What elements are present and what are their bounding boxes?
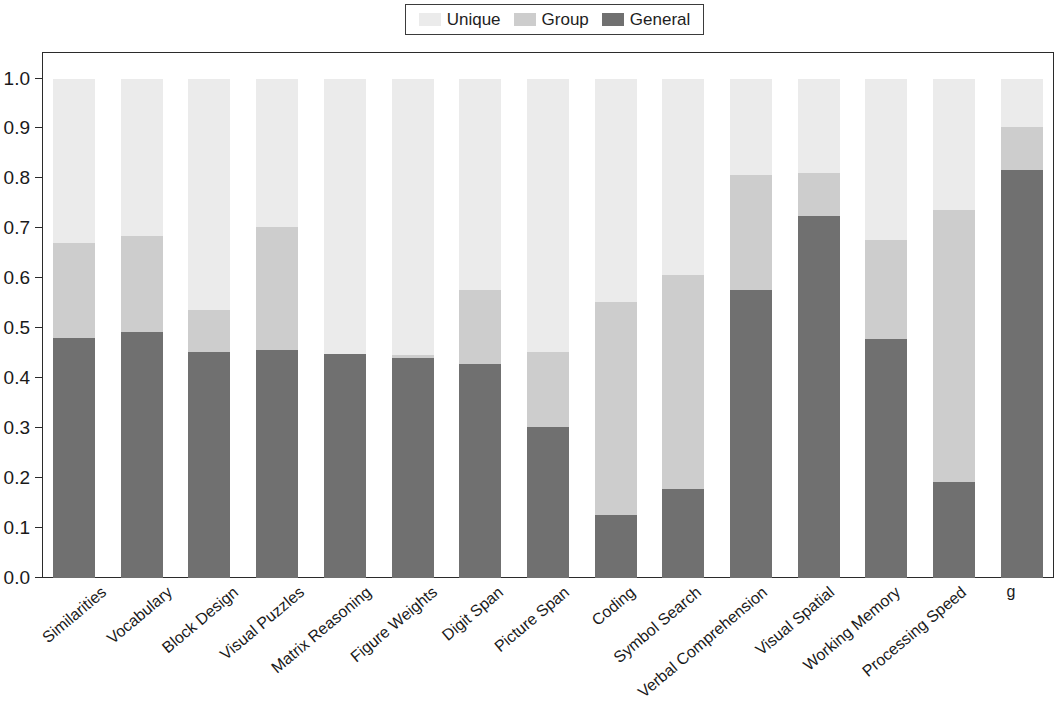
y-axis-tick-label: 0.9 bbox=[4, 118, 35, 137]
stacked-bar bbox=[527, 79, 569, 578]
bar-segment-unique bbox=[798, 79, 840, 173]
bar-segment-unique bbox=[256, 79, 298, 227]
stacked-bar bbox=[392, 79, 434, 578]
bar-segment-group bbox=[459, 290, 501, 365]
bar-segment-group bbox=[933, 210, 975, 482]
legend-swatch-icon bbox=[602, 13, 624, 26]
y-axis-tick-label: 0.2 bbox=[4, 468, 35, 487]
y-axis-tick-mark bbox=[35, 327, 42, 328]
bar-segment-unique bbox=[53, 79, 95, 243]
legend-swatch-icon bbox=[514, 13, 536, 26]
bar-segment-general bbox=[527, 427, 569, 578]
y-axis-tick-label: 0.1 bbox=[4, 518, 35, 537]
bar-segment-general bbox=[324, 354, 366, 578]
y-axis-tick-label: 0.3 bbox=[4, 418, 35, 437]
legend-entry: General bbox=[602, 11, 690, 28]
bar-segment-unique bbox=[865, 79, 907, 240]
y-axis-tick-mark bbox=[35, 78, 42, 79]
legend-entry: Unique bbox=[419, 11, 501, 28]
bar-segment-general bbox=[121, 332, 163, 579]
bar-segment-general bbox=[933, 482, 975, 578]
stacked-bar bbox=[256, 79, 298, 578]
y-axis-tick-mark bbox=[35, 277, 42, 278]
y-axis-tick-mark bbox=[35, 477, 42, 478]
bar-group bbox=[53, 79, 1043, 578]
y-axis-tick-mark bbox=[35, 227, 42, 228]
stacked-bar bbox=[798, 79, 840, 578]
bar-segment-group bbox=[865, 240, 907, 339]
legend-label: General bbox=[630, 11, 690, 28]
bar-segment-group bbox=[595, 302, 637, 515]
y-axis-tick-mark bbox=[35, 427, 42, 428]
bar-segment-group bbox=[662, 275, 704, 489]
bar-segment-general bbox=[53, 338, 95, 578]
stacked-bar bbox=[730, 79, 772, 578]
stacked-bar bbox=[595, 79, 637, 578]
bar-segment-general bbox=[459, 364, 501, 578]
y-axis-tick-label: 0.8 bbox=[4, 168, 35, 187]
y-axis-tick-label: 0.6 bbox=[4, 268, 35, 287]
bar-segment-unique bbox=[527, 79, 569, 352]
bar-segment-general bbox=[392, 358, 434, 578]
bar-segment-unique bbox=[662, 79, 704, 275]
legend-entry: Group bbox=[514, 11, 589, 28]
bar-segment-group bbox=[527, 352, 569, 427]
stacked-bar bbox=[1001, 79, 1043, 578]
stacked-bar bbox=[459, 79, 501, 578]
bar-segment-unique bbox=[392, 79, 434, 355]
stacked-bar bbox=[933, 79, 975, 578]
stacked-bar bbox=[188, 79, 230, 578]
y-axis-tick-mark bbox=[35, 577, 42, 578]
legend-label: Unique bbox=[447, 11, 501, 28]
bar-segment-unique bbox=[188, 79, 230, 310]
y-axis-tick-mark bbox=[35, 377, 42, 378]
x-axis: SimilaritiesVocabularyBlock DesignVisual… bbox=[42, 578, 1054, 715]
y-axis-tick-mark bbox=[35, 177, 42, 178]
bar-segment-group bbox=[256, 227, 298, 350]
plot-frame bbox=[42, 52, 1054, 578]
bar-segment-group bbox=[53, 243, 95, 339]
bar-segment-unique bbox=[1001, 79, 1043, 127]
bar-segment-general bbox=[595, 515, 637, 578]
legend-label: Group bbox=[542, 11, 589, 28]
bar-segment-group bbox=[730, 175, 772, 290]
bar-segment-group bbox=[121, 236, 163, 332]
bar-segment-unique bbox=[459, 79, 501, 290]
stacked-bar bbox=[121, 79, 163, 578]
bar-segment-general bbox=[865, 339, 907, 578]
bar-segment-group bbox=[188, 310, 230, 352]
bar-segment-general bbox=[798, 216, 840, 578]
bar-segment-general bbox=[730, 290, 772, 578]
y-axis-tick-mark bbox=[35, 127, 42, 128]
bar-segment-group bbox=[798, 173, 840, 216]
y-axis-tick-label: 0.4 bbox=[4, 368, 35, 387]
y-axis: 0.00.10.20.30.40.50.60.70.80.91.0 bbox=[0, 52, 42, 578]
bar-segment-group bbox=[1001, 127, 1043, 170]
bar-segment-unique bbox=[121, 79, 163, 236]
y-axis-tick-label: 0.0 bbox=[4, 568, 35, 587]
stacked-bar bbox=[865, 79, 907, 578]
plot-area bbox=[43, 53, 1053, 577]
stacked-bar bbox=[662, 79, 704, 578]
stacked-bar bbox=[53, 79, 95, 578]
y-axis-tick-label: 0.5 bbox=[4, 318, 35, 337]
x-axis-tick-label: g bbox=[991, 584, 1031, 600]
chart-legend: UniqueGroupGeneral bbox=[405, 4, 704, 35]
bar-segment-general bbox=[1001, 170, 1043, 578]
bar-segment-unique bbox=[324, 79, 366, 354]
bar-segment-general bbox=[256, 350, 298, 578]
stacked-bar bbox=[324, 79, 366, 578]
bar-segment-general bbox=[188, 352, 230, 578]
legend-swatch-icon bbox=[419, 13, 441, 26]
y-axis-tick-label: 1.0 bbox=[4, 69, 35, 88]
bar-segment-general bbox=[662, 489, 704, 578]
y-axis-tick-label: 0.7 bbox=[4, 218, 35, 237]
bar-segment-unique bbox=[730, 79, 772, 175]
y-axis-tick-mark bbox=[35, 527, 42, 528]
bar-segment-unique bbox=[595, 79, 637, 302]
bar-segment-unique bbox=[933, 79, 975, 210]
